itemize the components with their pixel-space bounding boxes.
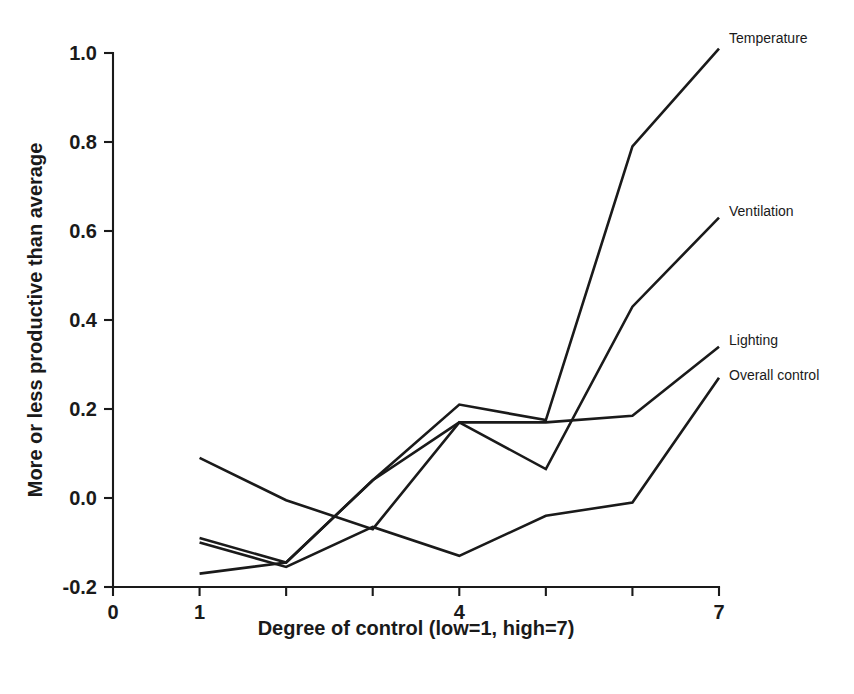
axes (113, 53, 719, 587)
y-tick-label-4: 0.6 (69, 220, 97, 242)
chart-figure: -0.20.00.20.40.60.81.0 0147 TemperatureV… (0, 0, 854, 694)
y-tick-label-0: -0.2 (63, 576, 97, 598)
series-label-ventilation: Ventilation (729, 203, 794, 219)
y-axis-title: More or less productive than average (24, 143, 46, 498)
axis-ticks (104, 53, 719, 596)
x-axis-title: Degree of control (low=1, high=7) (258, 617, 575, 639)
y-tick-label-2: 0.2 (69, 398, 97, 420)
series-label-overall-control: Overall control (729, 367, 819, 383)
x-tick-label-7: 7 (713, 601, 724, 623)
y-axis-tick-labels: -0.20.00.20.40.60.81.0 (63, 42, 98, 598)
x-tick-label-1: 1 (194, 601, 205, 623)
line-chart: -0.20.00.20.40.60.81.0 0147 TemperatureV… (0, 0, 854, 694)
series-line-ventilation (200, 218, 719, 530)
series-line-lighting (200, 347, 719, 563)
y-tick-label-6: 1.0 (69, 42, 97, 64)
y-tick-label-1: 0.0 (69, 487, 97, 509)
series-labels: TemperatureVentilationLightingOverall co… (729, 30, 819, 383)
data-series-lines (200, 49, 719, 574)
x-tick-label-0: 0 (107, 601, 118, 623)
y-tick-label-5: 0.8 (69, 131, 97, 153)
series-label-temperature: Temperature (729, 30, 808, 46)
series-label-lighting: Lighting (729, 332, 778, 348)
y-tick-label-3: 0.4 (69, 309, 98, 331)
